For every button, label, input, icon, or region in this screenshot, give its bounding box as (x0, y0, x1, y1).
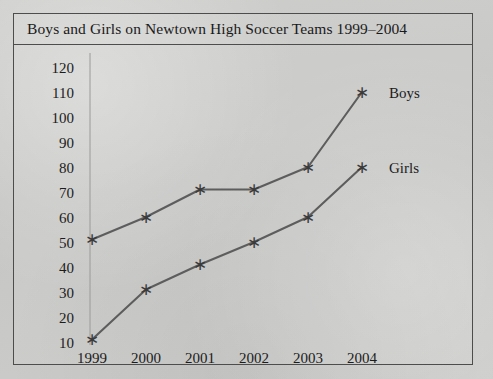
y-axis-tick-label: 60 (59, 210, 74, 226)
line-chart-svg: 102030405060708090100110120 199920002001… (14, 45, 474, 366)
y-axis-tick-label: 50 (59, 235, 74, 251)
y-axis-tick-label: 110 (52, 85, 74, 101)
y-axis-tick-label: 10 (59, 335, 74, 351)
x-axis-tick-label: 2004 (347, 350, 378, 366)
y-axis-tick-label: 80 (59, 160, 74, 176)
x-axis-tick-label: 2001 (185, 350, 215, 366)
series-inline-labels: BoysGirls (389, 85, 420, 176)
figure-frame: Boys and Girls on Newtown High Soccer Te… (13, 13, 473, 365)
data-point-marker: ∗ (139, 280, 153, 299)
y-axis-tick-label: 120 (52, 60, 75, 76)
data-point-marker: ∗ (301, 158, 315, 177)
y-axis-tick-label: 20 (59, 310, 74, 326)
data-point-marker: ∗ (193, 180, 207, 199)
series-markers: ∗∗∗∗∗∗∗∗∗∗∗∗ (85, 83, 369, 350)
y-axis-tick-label: 40 (59, 260, 74, 276)
series-lines (92, 92, 362, 340)
data-point-marker: ∗ (247, 180, 261, 199)
series-label-boys: Boys (389, 85, 420, 101)
x-axis-tick-label: 1999 (77, 350, 107, 366)
chart-title: Boys and Girls on Newtown High Soccer Te… (14, 14, 472, 45)
series-line-boys (92, 92, 362, 240)
data-point-marker: ∗ (85, 230, 99, 249)
series-label-girls: Girls (389, 160, 419, 176)
data-point-marker: ∗ (355, 158, 369, 177)
x-axis-tick-labels: 199920002001200220032004 (77, 350, 378, 366)
y-axis-tick-label: 100 (52, 110, 75, 126)
series-line-girls (92, 167, 362, 340)
data-point-marker: ∗ (139, 208, 153, 227)
x-axis-tick-label: 2002 (239, 350, 269, 366)
plot-area: 102030405060708090100110120 199920002001… (14, 45, 474, 366)
data-point-marker: ∗ (301, 208, 315, 227)
x-axis-tick-label: 2000 (131, 350, 161, 366)
data-point-marker: ∗ (247, 233, 261, 252)
y-axis-tick-label: 70 (59, 185, 74, 201)
x-axis-tick-label: 2003 (293, 350, 323, 366)
y-axis-tick-label: 90 (59, 135, 74, 151)
data-point-marker: ∗ (85, 330, 99, 349)
data-point-marker: ∗ (355, 83, 369, 102)
y-axis-tick-labels: 102030405060708090100110120 (52, 60, 75, 351)
y-axis-tick-label: 30 (59, 285, 74, 301)
data-point-marker: ∗ (193, 255, 207, 274)
